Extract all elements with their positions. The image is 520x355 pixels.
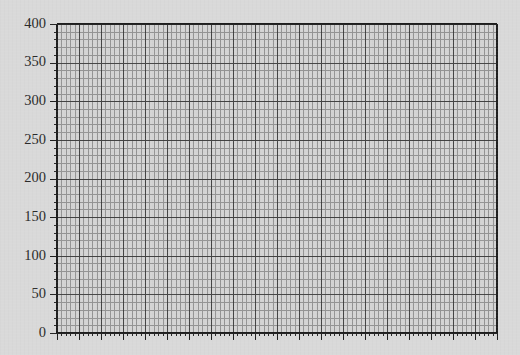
y-axis-tick-label: 150 [24, 208, 46, 224]
y-axis-tick-label: 200 [24, 169, 46, 185]
y-axis-tick-label: 50 [32, 285, 47, 301]
y-axis-tick-label: 350 [24, 53, 46, 69]
y-axis-tick-label: 100 [24, 247, 46, 263]
y-axis-tick-label: 300 [24, 92, 46, 108]
plot-svg: 050100150200250300350400 [0, 0, 520, 355]
figure-canvas: 050100150200250300350400 [0, 0, 520, 355]
y-axis-tick-label: 250 [24, 131, 46, 147]
y-axis-tick-label: 400 [24, 15, 46, 31]
y-axis-tick-label: 0 [39, 324, 46, 340]
major-gridlines [57, 24, 498, 334]
